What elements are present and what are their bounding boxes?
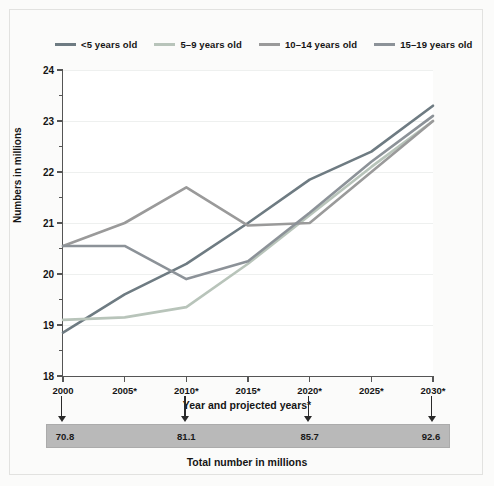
y-tick-label: 19: [43, 320, 54, 331]
x-tick-label: 2020*: [297, 385, 322, 396]
series-line-2: [63, 121, 433, 246]
figure-container: <5 years old 5–9 years old 10–14 years o…: [0, 0, 494, 486]
x-tick: [371, 376, 372, 382]
x-tick: [124, 376, 125, 382]
series-line-3: [63, 116, 433, 279]
total-value: 70.8: [56, 431, 75, 442]
total-value: 81.1: [177, 431, 196, 442]
x-tick-label: 2005*: [112, 385, 137, 396]
arrow-shaft: [431, 396, 432, 418]
y-tick-label: 18: [43, 371, 54, 382]
series-lines: [63, 70, 433, 376]
x-tick-label: 2030*: [421, 385, 446, 396]
arrow-shaft: [61, 396, 62, 418]
arrow-head: [181, 416, 189, 422]
total-value: 92.6: [422, 431, 441, 442]
arrow-head: [58, 416, 66, 422]
total-bar-caption: Total number in millions: [0, 456, 494, 468]
series-line-0: [63, 106, 433, 333]
x-tick: [432, 376, 433, 382]
y-tick-label: 21: [43, 218, 54, 229]
arrow-shaft: [308, 396, 309, 418]
arrow-shaft: [184, 396, 185, 418]
x-tick-label: 2015*: [236, 385, 261, 396]
x-tick: [62, 376, 63, 382]
x-tick-label: 2025*: [359, 385, 384, 396]
x-tick: [309, 376, 310, 382]
series-line-1: [63, 121, 433, 320]
arrow-head: [304, 416, 312, 422]
total-number-bar: 70.881.185.792.6: [46, 424, 450, 448]
x-tick-label: 2000: [52, 385, 73, 396]
y-tick-label: 20: [43, 269, 54, 280]
total-value: 85.7: [300, 431, 319, 442]
y-tick-label: 23: [43, 116, 54, 127]
arrow-head: [428, 416, 436, 422]
x-axis-title: Year and projected years*: [0, 399, 494, 411]
x-tick-label: 2010*: [174, 385, 199, 396]
plot-area: 18192021222324 20002005*2010*2015*2020*2…: [62, 70, 433, 377]
plot-wrapper: 18192021222324 20002005*2010*2015*2020*2…: [0, 0, 494, 486]
x-tick: [186, 376, 187, 382]
y-tick-label: 24: [43, 65, 54, 76]
y-tick-label: 22: [43, 167, 54, 178]
x-tick: [247, 376, 248, 382]
